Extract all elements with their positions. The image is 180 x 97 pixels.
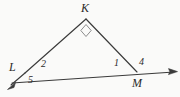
segment-KM xyxy=(86,19,137,72)
vertex-label-L: L xyxy=(9,61,16,73)
vertex-label-M: M xyxy=(132,77,142,89)
angle-label-2: 2 xyxy=(41,59,46,69)
angle-label-4: 4 xyxy=(139,57,144,67)
arrowhead-right-icon xyxy=(169,69,178,75)
geometry-figure: K L M 1 2 4 5 xyxy=(0,0,180,97)
arrowhead-left-icon xyxy=(8,83,16,90)
vertex-label-K: K xyxy=(81,2,89,14)
geometry-diagram-canvas xyxy=(0,0,180,97)
right-angle-marker-icon xyxy=(81,25,91,37)
segment-KL xyxy=(25,19,86,73)
angle-label-5: 5 xyxy=(28,75,33,85)
baseline-LM xyxy=(12,72,174,83)
angle-label-1: 1 xyxy=(114,58,119,68)
ray-beyond-L xyxy=(11,73,25,85)
